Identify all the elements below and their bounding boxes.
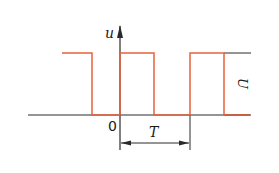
axis-arrow-icon: [117, 25, 123, 38]
origin-label: 0: [108, 118, 117, 134]
period-arrow-left-icon: [121, 141, 131, 146]
axis-label-u: u: [105, 25, 114, 41]
period-label: T: [149, 124, 160, 140]
amplitude-label: U: [235, 78, 250, 90]
period-arrow-right-icon: [179, 141, 189, 146]
square-waveform: [62, 53, 250, 115]
square-wave-diagram: u 0 T U: [0, 0, 279, 173]
